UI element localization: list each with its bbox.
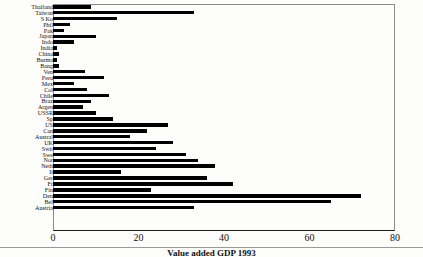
bar [53, 17, 117, 21]
bar [53, 64, 59, 68]
bar [53, 206, 194, 210]
bar [53, 88, 87, 92]
bar [53, 135, 130, 139]
bar [53, 29, 64, 33]
x-tick-20: 20 [134, 233, 144, 243]
bar [53, 200, 331, 204]
bar-row: Austria [0, 205, 423, 211]
chart-figure: ThailandTaiwanS KoPhilPakJapanIndoIndiaC… [0, 0, 423, 257]
bar [53, 11, 194, 15]
bar [53, 194, 361, 198]
bar [53, 153, 186, 157]
bar [53, 188, 151, 192]
bar [53, 105, 83, 109]
bar [53, 170, 121, 174]
x-tick-80: 80 [390, 233, 400, 243]
bar [53, 141, 173, 145]
bar [53, 117, 113, 121]
caption-divider [0, 247, 423, 248]
bar [53, 164, 215, 168]
bar [53, 182, 233, 186]
bar [53, 111, 96, 115]
x-tick-0: 0 [51, 233, 56, 243]
bar [53, 159, 198, 163]
bar [53, 147, 156, 151]
bar [53, 94, 109, 98]
bar [53, 123, 168, 127]
bar [53, 70, 85, 74]
x-tick-40: 40 [219, 233, 229, 243]
bar [53, 5, 91, 9]
bar-row-label: Austria [1, 205, 53, 211]
bar [53, 58, 57, 62]
bar-rows: ThailandTaiwanS KoPhilPakJapanIndoIndiaC… [0, 4, 423, 227]
bar [53, 52, 59, 56]
bar [53, 40, 74, 44]
bar [53, 46, 57, 50]
figure-caption: Value added GDP 1993 [0, 249, 423, 257]
x-tick-60: 60 [305, 233, 315, 243]
bar [53, 176, 207, 180]
bar [53, 23, 70, 27]
bar [53, 129, 147, 133]
bar-track [53, 205, 395, 211]
bar [53, 100, 91, 104]
bar [53, 76, 104, 80]
bar [53, 35, 96, 39]
bar [53, 82, 74, 86]
